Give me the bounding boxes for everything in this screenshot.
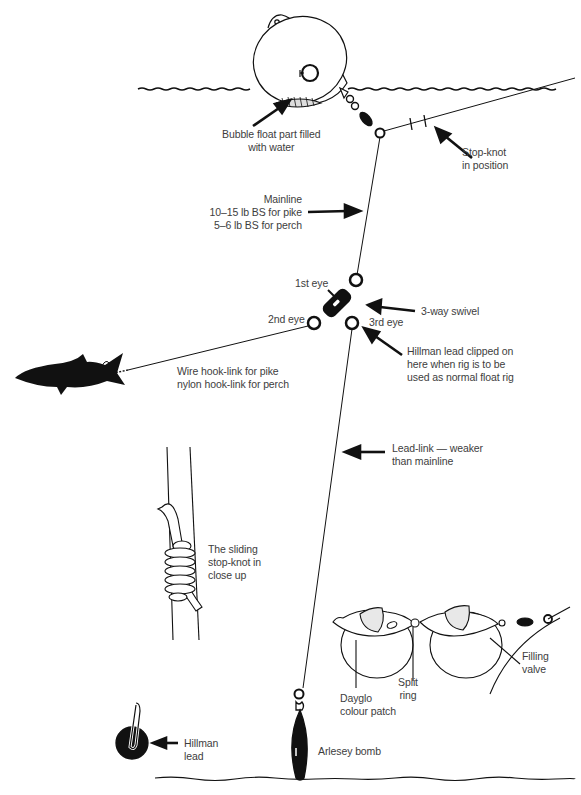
- label-hillman-clip: Hillman lead clipped on here when rig is…: [407, 345, 514, 384]
- label-first-eye: 1st eye: [295, 277, 328, 290]
- label-split-ring: Split ring: [398, 676, 418, 702]
- river-bed: [155, 777, 575, 780]
- rig-diagram: [0, 0, 581, 795]
- label-dayglo: Dayglo colour patch: [340, 692, 396, 718]
- label-stop-knot: Stop-knot in position: [462, 146, 508, 172]
- label-three-way-swivel: 3-way swivel: [421, 305, 479, 318]
- fish-bait-icon: [15, 353, 125, 395]
- label-sliding-knot: The sliding stop-knot in close up: [208, 543, 261, 582]
- label-second-eye: 2nd eye: [268, 313, 305, 326]
- bubble-float-icon: [241, 4, 359, 117]
- label-filling-valve: Filling valve: [522, 650, 549, 676]
- label-hillman-lead: Hillman lead: [184, 737, 218, 763]
- swivel-icon: [347, 96, 385, 138]
- label-third-eye: 3rd eye: [369, 316, 403, 329]
- hillman-lead-icon: [116, 703, 148, 759]
- water-surface: [138, 88, 556, 90]
- mainline: [357, 78, 575, 275]
- label-lead-link: Lead-link — weaker than mainline: [392, 442, 483, 468]
- label-bubble-float: Bubble float part filled with water: [222, 128, 321, 154]
- label-mainline: Mainline 10–15 lb BS for pike 5–6 lb BS …: [198, 193, 302, 232]
- stop-knot-icon: [158, 447, 202, 640]
- label-hook-link: Wire hook-link for pike nylon hook-link …: [177, 365, 289, 391]
- label-arlesey-bomb: Arlesey bomb: [318, 745, 381, 758]
- arlesey-bomb-icon: [292, 690, 307, 781]
